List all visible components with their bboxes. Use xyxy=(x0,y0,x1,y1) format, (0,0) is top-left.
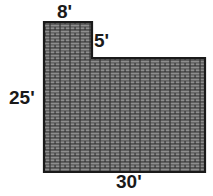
dimension-label-notch-depth: 5' xyxy=(94,31,109,50)
dimension-label-bottom-width: 30' xyxy=(116,172,142,191)
dimension-label-top-width: 8' xyxy=(57,2,72,21)
room-outline-path xyxy=(44,22,205,172)
diagram-canvas: 8' 5' 25' 30' xyxy=(0,0,213,196)
dimension-label-left-height: 25' xyxy=(9,88,35,107)
